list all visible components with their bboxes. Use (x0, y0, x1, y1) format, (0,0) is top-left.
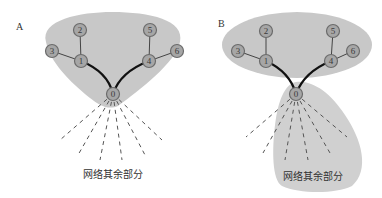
svg-text:5: 5 (148, 25, 153, 35)
panel-a: A 2 3 1 5 6 4 0 网络其余部分 (16, 12, 184, 180)
svg-text:4: 4 (329, 56, 334, 66)
panel-a-dashed-links (60, 94, 162, 160)
svg-text:5: 5 (331, 26, 336, 36)
panel-b-caption: 网络其余部分 (283, 170, 343, 182)
panel-a-node-0: 0 (107, 88, 120, 101)
panel-a-node-5: 5 (144, 24, 157, 37)
svg-text:2: 2 (78, 25, 83, 35)
svg-text:3: 3 (236, 46, 241, 56)
svg-text:4: 4 (147, 56, 152, 66)
svg-text:0: 0 (111, 89, 116, 99)
panel-b-node-5: 5 (327, 25, 340, 38)
panel-b: B 2 3 1 5 6 4 0 网络其余部分 (218, 12, 372, 192)
panel-a-node-1: 1 (75, 55, 88, 68)
svg-text:0: 0 (294, 89, 299, 99)
panel-b-node-6: 6 (347, 45, 360, 58)
panel-b-node-4: 4 (325, 55, 338, 68)
panel-a-caption: 网络其余部分 (83, 168, 143, 180)
svg-text:3: 3 (50, 46, 55, 56)
svg-text:1: 1 (79, 56, 84, 66)
panel-b-node-2: 2 (260, 25, 273, 38)
panel-a-node-2: 2 (74, 24, 87, 37)
panel-a-node-6: 6 (171, 45, 184, 58)
svg-text:6: 6 (175, 46, 180, 56)
svg-text:2: 2 (264, 26, 269, 36)
panel-b-node-3: 3 (232, 45, 245, 58)
panel-b-label: B (218, 18, 225, 29)
panel-a-node-3: 3 (46, 45, 59, 58)
svg-text:6: 6 (351, 46, 356, 56)
panel-b-node-0: 0 (290, 88, 303, 101)
svg-text:1: 1 (264, 56, 269, 66)
network-diagram: A 2 3 1 5 6 4 0 网络其余部分 B (0, 0, 382, 198)
panel-b-node-1: 1 (260, 55, 273, 68)
panel-a-label: A (16, 21, 24, 32)
panel-a-node-4: 4 (143, 55, 156, 68)
